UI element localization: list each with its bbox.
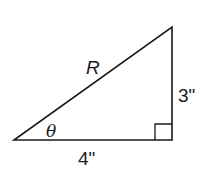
- adjacent-side-label: 4": [78, 148, 95, 169]
- right-triangle: [14, 27, 172, 140]
- triangle-diagram: R 3" 4" θ: [0, 0, 209, 173]
- opposite-side-label: 3": [178, 85, 195, 106]
- right-angle-marker: [155, 124, 172, 140]
- angle-theta-label: θ: [46, 121, 56, 141]
- hypotenuse-label: R: [86, 57, 100, 78]
